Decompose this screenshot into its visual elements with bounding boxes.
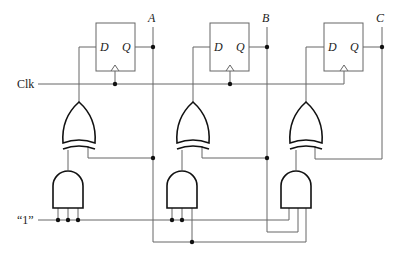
junction-dots [56, 45, 384, 244]
flip-flop-2: D Q [210, 23, 249, 71]
and-gate-3 [281, 171, 311, 208]
ff3-d-label: D [327, 40, 337, 54]
xor-gate-3 [290, 102, 322, 149]
output-label-c: C [376, 11, 385, 25]
ff3-q-label: Q [350, 40, 359, 54]
xor-gate-2 [177, 102, 209, 149]
clock-input-label: Clk [17, 77, 34, 91]
flip-flop-3: D Q [324, 23, 363, 71]
and-gate-1 [53, 171, 83, 208]
xor-gate-1 [63, 102, 95, 149]
constant-one-label: “1” [17, 213, 34, 227]
output-label-b: B [262, 11, 270, 25]
and-gate-2 [167, 171, 197, 208]
ff2-q-label: Q [236, 40, 245, 54]
counter-circuit-diagram: D Q D Q D Q A B C Clk “1” [0, 0, 402, 255]
ff1-q-label: Q [122, 40, 131, 54]
flip-flop-1: D Q [96, 23, 135, 71]
ff2-d-label: D [213, 40, 223, 54]
ff1-d-label: D [99, 40, 109, 54]
output-label-a: A [147, 11, 156, 25]
